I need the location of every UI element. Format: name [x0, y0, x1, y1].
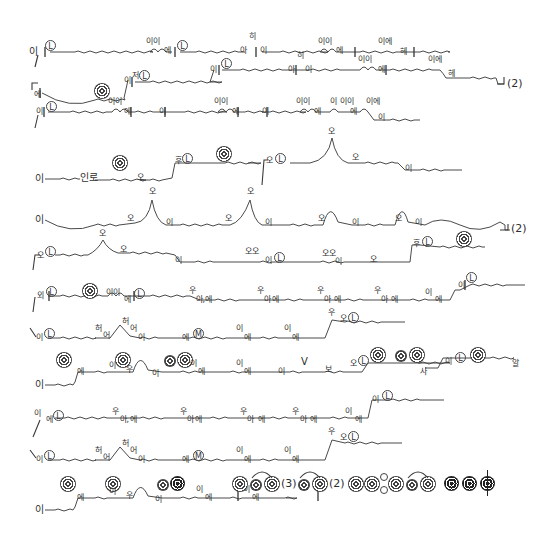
repeat-count-3: (3) — [281, 478, 297, 489]
syllable: 에 — [244, 368, 251, 376]
strike-line — [487, 470, 488, 496]
dot-symbol-icon — [380, 473, 388, 481]
syllable: 오 — [340, 315, 347, 323]
syllable: 이에 — [366, 98, 379, 106]
M-symbol-icon: M — [193, 328, 204, 339]
syllable: 아 — [247, 416, 254, 424]
bell-symbol-icon — [56, 352, 72, 368]
L-symbol-icon: L — [177, 40, 188, 51]
syllable: 에 — [292, 456, 299, 464]
syllable: 이 — [138, 334, 145, 342]
syllable: 이 — [236, 325, 243, 333]
syllable: 이 — [425, 289, 432, 297]
syllable: 오 — [350, 360, 357, 368]
L-symbol-icon: L — [221, 58, 232, 69]
L-symbol-icon: L — [358, 355, 369, 366]
syllable: 이 — [260, 47, 267, 55]
syllable: 이 — [36, 108, 43, 116]
syllable: 에 — [232, 108, 239, 116]
M-symbol-icon: M — [193, 450, 204, 461]
syllable: 에 — [355, 416, 362, 424]
syllable: 저 — [132, 72, 139, 80]
syllable: 우 — [328, 309, 335, 317]
syllable: 이 — [196, 486, 203, 494]
bell-symbol-icon — [312, 476, 328, 492]
syllable: 이 — [166, 219, 173, 227]
syllable: 에 — [124, 296, 131, 304]
syllable: 이 — [138, 456, 145, 464]
syllable: 우 — [126, 492, 133, 500]
syllable: 아 — [288, 66, 295, 74]
syllable: 허 — [95, 325, 102, 333]
bell-symbol-icon — [370, 347, 386, 363]
syllable: 에 — [77, 494, 84, 502]
bell-symbol-icon — [216, 146, 232, 162]
small-bell-symbol-icon — [250, 479, 262, 491]
syllable: 에 — [77, 368, 84, 376]
L-symbol-icon: L — [275, 153, 286, 164]
syllable: 이 — [155, 496, 162, 504]
syllable: 이 — [330, 98, 337, 106]
dark-bell-symbol-icon — [170, 476, 185, 491]
syllable: 이 — [190, 360, 197, 368]
syllable: 이이 — [106, 289, 119, 297]
L-symbol-icon: L — [139, 70, 150, 81]
syllable: 헤 — [400, 48, 407, 56]
syllable: 에 — [336, 47, 343, 55]
syllable: 이 — [124, 77, 131, 85]
syllable: 이 — [36, 334, 43, 342]
L-symbol-icon: L — [382, 390, 393, 401]
syllable: 어 — [103, 332, 110, 340]
syllable: 이 — [35, 215, 44, 225]
syllable: 이 — [29, 47, 38, 57]
syllable: 아 — [381, 296, 388, 304]
bell-symbol-icon — [232, 476, 248, 492]
syllable: 우 — [112, 408, 119, 416]
syllable: 오 — [318, 215, 325, 223]
syllable: 히 — [297, 52, 304, 60]
syllable: 에 — [310, 416, 317, 424]
syllable: 이 — [265, 257, 272, 265]
syllable: 이이 — [358, 56, 371, 64]
syllable: 헤 — [448, 70, 455, 78]
syllable: 이 — [236, 360, 243, 368]
dark-bell-symbol-icon — [462, 476, 477, 491]
syllable: 오 — [395, 215, 402, 223]
L-symbol-icon: L — [45, 40, 56, 51]
L-symbol-icon: L — [274, 252, 285, 263]
syllable: 이 — [278, 368, 285, 376]
syllable: 오 — [340, 434, 347, 442]
syllable: 오 — [137, 174, 144, 182]
syllable: 우 — [374, 287, 381, 295]
small-bell-symbol-icon — [298, 479, 310, 491]
syllable: 에 — [164, 47, 171, 55]
syllable: 에 — [378, 66, 385, 74]
syllable: 이 — [35, 174, 44, 184]
syllable: 사 — [420, 368, 427, 376]
syllable: 에 — [46, 416, 53, 424]
dark-bell-symbol-icon — [444, 476, 459, 491]
syllable: 후 — [413, 240, 420, 248]
syllable: 이 — [35, 380, 44, 390]
syllable: 에 — [198, 368, 205, 376]
syllable: 이 — [109, 362, 116, 370]
L-symbol-icon: L — [44, 450, 55, 461]
syllable: 어 — [130, 447, 137, 455]
syllable: 에 — [205, 494, 212, 502]
syllable: 에 — [34, 91, 41, 99]
syllable: 에 — [244, 456, 251, 464]
syllable: 이이 — [146, 38, 159, 46]
syllable: 오 — [149, 188, 156, 196]
syllable: 우 — [180, 408, 187, 416]
syllable: 이 — [445, 358, 452, 366]
L-symbol-icon: L — [182, 153, 193, 164]
syllable: 허 — [122, 318, 129, 326]
repeat-count: (2) — [511, 223, 527, 234]
syllable: 이 — [262, 108, 269, 116]
syllable: 에 — [350, 108, 357, 116]
L-symbol-icon: L — [466, 272, 477, 283]
syllable: 이에 — [428, 56, 441, 64]
L-symbol-icon: L — [53, 410, 64, 421]
syllable: 아 — [300, 416, 307, 424]
syllable: 우 — [240, 408, 247, 416]
